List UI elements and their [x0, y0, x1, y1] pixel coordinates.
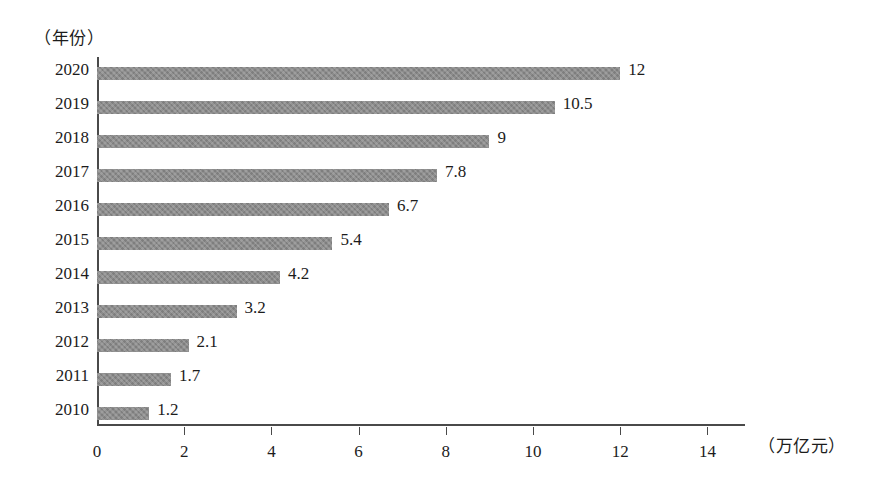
bar	[97, 67, 620, 80]
bar	[97, 305, 237, 318]
bar-value-label: 1.2	[157, 399, 178, 420]
y-axis-tick-label: 2017	[11, 160, 89, 183]
x-axis-tick-label: 8	[442, 442, 451, 462]
x-axis-tick	[271, 427, 272, 435]
x-axis-tick	[184, 427, 185, 435]
bar	[97, 203, 389, 216]
bar-value-label: 12	[628, 59, 645, 80]
bar-row: 20155.4	[97, 227, 745, 261]
plot-area: 202012201910.52018920177.820166.720155.4…	[97, 57, 745, 426]
bar	[97, 135, 489, 148]
bar-row: 201910.5	[97, 91, 745, 125]
x-axis-tick-label: 4	[267, 442, 276, 462]
x-axis-tick-label: 0	[93, 442, 102, 462]
y-axis-tick-label: 2010	[11, 398, 89, 421]
bar-row: 20111.7	[97, 363, 745, 397]
bar-row: 202012	[97, 57, 745, 91]
y-axis-caption: （年份）	[34, 24, 104, 49]
y-axis-tick-label: 2011	[11, 364, 89, 387]
bar-row: 20166.7	[97, 193, 745, 227]
bar-value-label: 3.2	[245, 297, 266, 318]
bar-row: 20122.1	[97, 329, 745, 363]
bar-value-label: 1.7	[179, 365, 200, 386]
bar-row: 20144.2	[97, 261, 745, 295]
bar	[97, 169, 437, 182]
y-axis-tick-label: 2014	[11, 262, 89, 285]
bar-row: 20177.8	[97, 159, 745, 193]
bar	[97, 373, 171, 386]
bar-row: 20189	[97, 125, 745, 159]
bar-value-label: 6.7	[397, 195, 418, 216]
x-axis-caption: （万亿元）	[758, 432, 846, 457]
x-axis-tick	[446, 427, 447, 435]
bar-value-label: 9	[497, 127, 506, 148]
x-axis-tick	[533, 427, 534, 435]
bar-value-label: 7.8	[445, 161, 466, 182]
y-axis-tick-label: 2016	[11, 194, 89, 217]
y-axis-tick-label: 2018	[11, 126, 89, 149]
bar	[97, 271, 280, 284]
x-axis-tick	[359, 427, 360, 435]
bar	[97, 237, 332, 250]
bar-value-label: 10.5	[563, 93, 593, 114]
bar-row: 20133.2	[97, 295, 745, 329]
x-axis-tick-label: 14	[699, 442, 716, 462]
x-axis-tick-label: 10	[525, 442, 542, 462]
bar-rows: 202012201910.52018920177.820166.720155.4…	[97, 57, 745, 424]
bar-value-label: 5.4	[340, 229, 361, 250]
bar	[97, 407, 149, 420]
y-axis-tick-label: 2015	[11, 228, 89, 251]
y-axis-tick-label: 2012	[11, 330, 89, 353]
bar-chart: （年份） 202012201910.52018920177.820166.720…	[0, 0, 872, 481]
x-axis-tick	[620, 427, 621, 435]
y-axis-tick-label: 2020	[11, 58, 89, 81]
bar	[97, 101, 555, 114]
bar-value-label: 4.2	[288, 263, 309, 284]
x-axis-tick-label: 2	[180, 442, 189, 462]
x-axis-tick-label: 6	[354, 442, 363, 462]
bar	[97, 339, 189, 352]
y-axis-tick-label: 2013	[11, 296, 89, 319]
x-axis-tick	[707, 427, 708, 435]
bar-row: 20101.2	[97, 397, 745, 431]
bar-value-label: 2.1	[197, 331, 218, 352]
x-axis-tick-label: 12	[612, 442, 629, 462]
y-axis-tick-label: 2019	[11, 92, 89, 115]
